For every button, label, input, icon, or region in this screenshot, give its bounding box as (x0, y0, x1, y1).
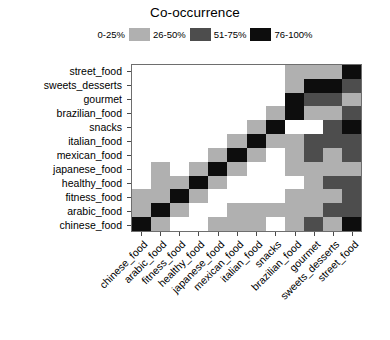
heatmap-cell (285, 106, 304, 120)
heatmap-cell (323, 189, 342, 203)
heatmap-cell (170, 106, 189, 120)
heatmap-cell (304, 148, 323, 162)
heatmap-cell (151, 176, 170, 190)
heatmap-cell (304, 162, 323, 176)
heatmap-cell (304, 65, 323, 79)
heatmap-cell (304, 106, 323, 120)
heatmap-cell (189, 176, 208, 190)
heatmap-cell (227, 65, 246, 79)
heatmap-cell (208, 93, 227, 107)
heatmap-cell (285, 134, 304, 148)
heatmap-cell (189, 203, 208, 217)
heatmap-cell (227, 79, 246, 93)
y-axis-label: italian_food (0, 134, 127, 148)
heatmap-cell (247, 106, 266, 120)
legend-entry: 51-75% (190, 28, 251, 41)
heatmap-cell (304, 134, 323, 148)
y-axis-label: snacks (0, 120, 127, 134)
heatmap-cell (208, 65, 227, 79)
heatmap-cell (285, 148, 304, 162)
heatmap-cell (285, 65, 304, 79)
heatmap-cell (227, 106, 246, 120)
heatmap-cell (285, 189, 304, 203)
heatmap-cell (132, 189, 151, 203)
heatmap-cell (151, 79, 170, 93)
heatmap-cell (189, 189, 208, 203)
y-axis-label: sweets_desserts (0, 78, 127, 92)
heatmap-cell (323, 134, 342, 148)
x-axis-label-wrap: street_food (343, 236, 362, 336)
legend-title: Co-occurrence (0, 5, 390, 20)
heatmap-cell (132, 176, 151, 190)
legend-entry: 76-100% (250, 28, 316, 41)
heatmap-cell (227, 134, 246, 148)
heatmap-cell (266, 134, 285, 148)
y-axis-label: gourmet (0, 92, 127, 106)
heatmap-cell (323, 79, 342, 93)
legend-label: 26-50% (150, 29, 190, 40)
heatmap-cell (266, 162, 285, 176)
heatmap-cell (132, 106, 151, 120)
heatmap-cell (227, 162, 246, 176)
legend-swatch (74, 28, 95, 41)
heatmap-cell (285, 217, 304, 231)
heatmap-cell (342, 162, 361, 176)
heatmap-cell (132, 148, 151, 162)
y-axis-label: arabic_food (0, 204, 127, 218)
heatmap-cell (189, 106, 208, 120)
heatmap-cell (342, 148, 361, 162)
heatmap-cell (132, 65, 151, 79)
heatmap-cell (342, 106, 361, 120)
heatmap-cell (323, 106, 342, 120)
heatmap-cell (285, 79, 304, 93)
legend-swatch (190, 28, 211, 41)
legend-label: 76-100% (271, 29, 316, 40)
heatmap-cell (266, 120, 285, 134)
heatmap-cell (342, 79, 361, 93)
heatmap-cell (227, 176, 246, 190)
heatmap-cell (170, 79, 189, 93)
heatmap-cell (227, 203, 246, 217)
heatmap-cell (189, 93, 208, 107)
heatmap-cell (132, 120, 151, 134)
heatmap-cell (208, 134, 227, 148)
heatmap-cell (247, 120, 266, 134)
heatmap-grid (132, 65, 361, 231)
heatmap-cell (342, 134, 361, 148)
heatmap-cell (304, 93, 323, 107)
heatmap-cell (151, 106, 170, 120)
heatmap-cell (132, 162, 151, 176)
legend-label: 51-75% (211, 29, 251, 40)
heatmap-cell (151, 65, 170, 79)
legend-swatch (250, 28, 271, 41)
heatmap-cell (151, 189, 170, 203)
y-axis-label: healthy_food (0, 176, 127, 190)
heatmap-cell (285, 176, 304, 190)
heatmap-cell (189, 162, 208, 176)
heatmap-cell (208, 189, 227, 203)
heatmap-cell (342, 203, 361, 217)
heatmap-cell (323, 120, 342, 134)
heatmap-cell (266, 148, 285, 162)
y-axis-label: mexican_food (0, 148, 127, 162)
heatmap-cell (170, 176, 189, 190)
heatmap-cell (208, 203, 227, 217)
heatmap-cell (247, 79, 266, 93)
heatmap-cell (247, 93, 266, 107)
heatmap-cell (266, 93, 285, 107)
heatmap-cell (247, 189, 266, 203)
legend-label: 0-25% (95, 29, 129, 40)
heatmap-cell (227, 93, 246, 107)
heatmap-cell (170, 93, 189, 107)
heatmap-cell (132, 217, 151, 231)
heatmap-cell (304, 176, 323, 190)
heatmap-cell (208, 217, 227, 231)
heatmap-cell (323, 176, 342, 190)
heatmap-cell (132, 134, 151, 148)
heatmap-cell (323, 162, 342, 176)
heatmap-cell (151, 217, 170, 231)
heatmap-cell (151, 203, 170, 217)
heatmap-cell (304, 217, 323, 231)
heatmap-cell (285, 203, 304, 217)
heatmap-cell (342, 120, 361, 134)
